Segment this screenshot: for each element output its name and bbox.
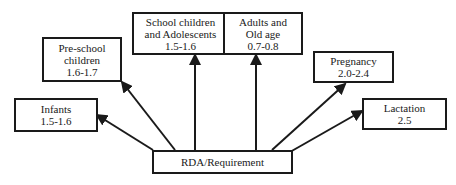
pregnancy-value: 2.0-2.4	[315, 67, 392, 79]
school-label-line1: School children	[134, 16, 227, 28]
school-label-line2: and Adolescents	[134, 28, 227, 40]
preschool-label-line2: children	[44, 54, 120, 66]
rda-requirement-box: RDA/Requirement	[152, 150, 293, 174]
preschool-label-line1: Pre-school	[44, 42, 120, 54]
arrow-to-infants	[97, 115, 153, 150]
lactation-value: 2.5	[364, 114, 445, 126]
school-value: 1.5-1.6	[134, 40, 227, 52]
arrow-to-preschool	[122, 82, 175, 150]
rda-requirement-label: RDA/Requirement	[154, 156, 291, 168]
lactation-box: Lactation 2.5	[362, 98, 447, 130]
preschool-box: Pre-school children 1.6-1.7	[42, 37, 122, 82]
pregnancy-box: Pregnancy 2.0-2.4	[313, 51, 394, 83]
adults-label-line1: Adults and	[225, 16, 301, 28]
adults-value: 0.7-0.8	[225, 40, 301, 52]
preschool-value: 1.6-1.7	[44, 66, 120, 78]
infants-box: Infants 1.5-1.6	[14, 98, 98, 132]
adults-box: Adults and Old age 0.7-0.8	[223, 12, 303, 55]
infants-value: 1.5-1.6	[16, 115, 96, 127]
arrow-to-pregnancy	[272, 84, 345, 150]
adults-label-line2: Old age	[225, 28, 301, 40]
arrow-to-lactation	[290, 111, 362, 152]
school-box: School children and Adolescents 1.5-1.6	[132, 12, 229, 55]
lactation-label: Lactation	[364, 102, 445, 114]
infants-label: Infants	[16, 103, 96, 115]
pregnancy-label: Pregnancy	[315, 55, 392, 67]
